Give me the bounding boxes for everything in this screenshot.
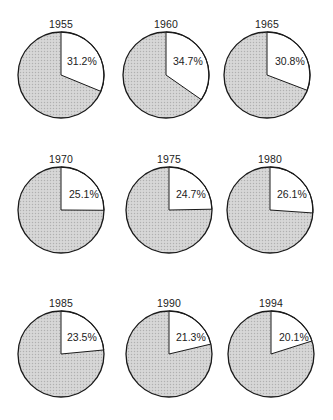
pie-title: 1960: [116, 18, 216, 30]
pie-title: 1990: [119, 297, 219, 309]
pie-title: 1955: [11, 18, 111, 30]
pie-title: 1975: [119, 153, 219, 165]
pie-graphic: [220, 165, 320, 265]
pie-slice-label: 20.1%: [279, 331, 309, 343]
pie-title: 1994: [221, 297, 321, 309]
pie-chart: 1980 26.1%: [220, 153, 320, 265]
pie-chart: 1965 30.8%: [217, 18, 317, 130]
pie-title: 1980: [220, 153, 320, 165]
pie-slice-label: 24.7%: [176, 188, 206, 200]
pie-graphic: [116, 30, 216, 130]
pie-graphic: [11, 309, 111, 409]
pie-graphic: [221, 309, 321, 409]
pie-title: 1985: [11, 297, 111, 309]
pie-slice-label: 23.5%: [67, 331, 97, 343]
pie-slice-label: 26.1%: [277, 188, 307, 200]
pie-title: 1965: [217, 18, 317, 30]
pie-chart: 1994 20.1%: [221, 297, 321, 409]
pie-slice-label: 30.8%: [275, 55, 305, 67]
pie-chart-grid: 1955 31.2% 1960 34.7% 1965 30.8% 1970 25…: [0, 0, 333, 420]
pie-slice-label: 25.1%: [69, 188, 99, 200]
pie-graphic: [119, 309, 219, 409]
pie-chart: 1955 31.2%: [11, 18, 111, 130]
pie-graphic: [217, 30, 317, 130]
pie-chart: 1985 23.5%: [11, 297, 111, 409]
pie-graphic: [11, 30, 111, 130]
pie-chart: 1975 24.7%: [119, 153, 219, 265]
pie-graphic: [11, 165, 111, 265]
pie-chart: 1990 21.3%: [119, 297, 219, 409]
pie-slice-label: 21.3%: [176, 331, 206, 343]
pie-graphic: [119, 165, 219, 265]
pie-slice-label: 34.7%: [173, 55, 203, 67]
pie-slice-label: 31.2%: [67, 55, 97, 67]
pie-chart: 1960 34.7%: [116, 18, 216, 130]
pie-chart: 1970 25.1%: [11, 153, 111, 265]
pie-title: 1970: [11, 153, 111, 165]
